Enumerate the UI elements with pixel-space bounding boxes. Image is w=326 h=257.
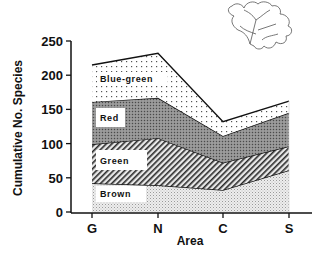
- y-tick-label: 200: [41, 68, 63, 83]
- seaweed-drawing-icon: [228, 2, 291, 49]
- x-tick-label: G: [87, 221, 97, 236]
- x-axis-title: Area: [177, 234, 204, 248]
- svg-text:Blue-green: Blue-green: [100, 74, 153, 84]
- y-tick-label: 250: [41, 34, 63, 49]
- x-tick-label: N: [153, 221, 162, 236]
- stacked-area-chart: 050100150200250 GNCS Cumulative No. Spec…: [0, 0, 326, 257]
- x-tick-label: S: [285, 221, 294, 236]
- y-tick-label: 100: [41, 137, 63, 152]
- y-tick-label: 0: [56, 205, 63, 220]
- y-axis: 050100150200250: [41, 34, 71, 220]
- band-label-green: Green: [96, 150, 147, 170]
- svg-text:Green: Green: [100, 156, 129, 166]
- band-label-red: Red: [96, 108, 125, 127]
- x-tick-label: C: [218, 221, 228, 236]
- svg-text:Brown: Brown: [100, 189, 131, 199]
- y-tick-label: 50: [49, 171, 63, 186]
- svg-text:Red: Red: [100, 113, 119, 123]
- y-axis-title: Cumulative No. Species: [11, 60, 25, 196]
- band-label-bluegreen: Blue-green: [97, 72, 167, 86]
- y-tick-label: 150: [41, 102, 63, 117]
- x-axis: GNCS: [71, 213, 312, 236]
- band-label-brown: Brown: [96, 186, 146, 202]
